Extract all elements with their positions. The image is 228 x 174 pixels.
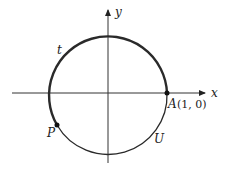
point-p-label: P: [46, 126, 56, 140]
arc-u: [57, 93, 167, 154]
arc-u-label: U: [154, 132, 165, 146]
point-p: [55, 123, 60, 128]
y-axis-label: y: [114, 5, 122, 19]
point-a-coords: (1, 0): [177, 98, 207, 111]
arc-t-label: t: [57, 43, 62, 57]
unit-circle-diagram: y x A (1, 0) P t U: [0, 0, 228, 174]
point-a-label: A: [167, 97, 177, 111]
point-a: [165, 91, 170, 96]
x-axis-label: x: [211, 86, 218, 100]
